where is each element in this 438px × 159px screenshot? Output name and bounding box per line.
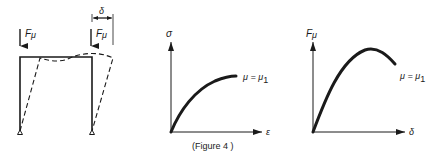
curve-label-mu: μ = μ1	[399, 71, 425, 84]
support-left-icon	[18, 130, 23, 135]
figure-caption: (Figure 4 )	[192, 141, 234, 151]
load-label-right: Fμ	[96, 28, 107, 40]
frame-undeformed	[20, 57, 92, 131]
x-axis-label-delta: δ	[409, 127, 415, 137]
figure-4-diagram: Fμ Fμ δ σ ε μ = μ1 (Figure 4 ) Fμ δ μ =	[0, 0, 438, 159]
force-displacement-chart: Fμ δ μ = μ1	[306, 28, 425, 137]
curve-label-mu: μ = μ1	[242, 72, 268, 85]
x-axis-label-epsilon: ε	[266, 127, 271, 137]
y-axis-label-sigma: σ	[166, 28, 173, 39]
load-label-left: Fμ	[25, 28, 36, 40]
force-displacement-curve	[313, 49, 395, 132]
stress-strain-curve	[171, 76, 236, 132]
support-right-icon	[90, 130, 95, 135]
y-axis-label-force: Fμ	[306, 28, 317, 40]
frame-deformed-dashed	[20, 53, 113, 131]
portal-frame: Fμ Fμ δ	[18, 6, 114, 135]
stress-strain-chart: σ ε μ = μ1 (Figure 4 )	[166, 28, 271, 151]
delta-label: δ	[99, 6, 105, 16]
